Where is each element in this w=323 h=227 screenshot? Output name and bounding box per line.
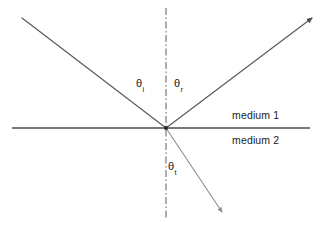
theta-subscript-transmitted: t (174, 168, 176, 177)
angle-label-theta-incident: θi (136, 78, 144, 92)
angle-label-theta-transmitted: θt (168, 161, 176, 175)
angle-label-theta-reflected: θr (174, 78, 183, 92)
theta-subscript-incident: i (142, 85, 144, 94)
optics-diagram: θi θr θt medium 1 medium 2 (0, 0, 323, 227)
medium-2-label: medium 2 (232, 135, 279, 146)
medium-1-label: medium 1 (232, 110, 279, 121)
incident-ray (22, 18, 166, 128)
incidence-point (164, 126, 168, 130)
theta-subscript-reflected: r (180, 85, 183, 94)
